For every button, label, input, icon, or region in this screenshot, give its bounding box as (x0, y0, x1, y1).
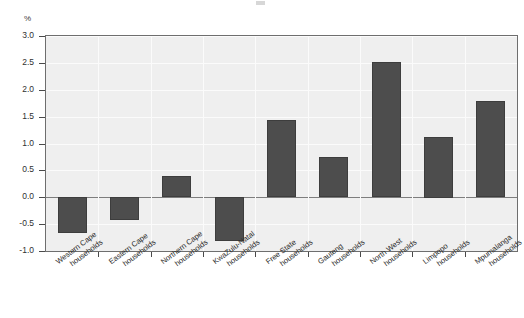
gridline-horizontal (46, 36, 517, 37)
gridline-vertical (255, 36, 256, 251)
y-axis-tick-label: 2.0 (0, 85, 34, 94)
y-axis-tick-label: 1.0 (0, 139, 34, 148)
gridline-vertical (360, 36, 361, 251)
bar-chart: % 3.02.52.01.51.00.50.0-0.5-1.0Western C… (0, 0, 524, 318)
y-axis-tick-label: 3.0 (0, 31, 34, 40)
gridline-vertical (151, 36, 152, 251)
gridline-vertical (412, 36, 413, 251)
x-axis-tick (360, 252, 361, 257)
y-axis-tick (39, 251, 45, 252)
gridline-horizontal (46, 90, 517, 91)
x-axis-tick (255, 252, 256, 257)
y-axis-tick (39, 90, 45, 91)
y-axis-tick-label: -1.0 (0, 246, 34, 255)
y-axis-tick (39, 36, 45, 37)
y-axis-tick (39, 224, 45, 225)
gridline-vertical (308, 36, 309, 251)
y-axis-tick-label: 0.0 (0, 192, 34, 201)
x-axis-tick (151, 252, 152, 257)
bar (372, 62, 401, 197)
x-axis-tick (203, 252, 204, 257)
bar (424, 137, 453, 198)
y-axis-tick (39, 144, 45, 145)
gridline-horizontal (46, 63, 517, 64)
bar (58, 197, 87, 233)
gridline-vertical (465, 36, 466, 251)
x-axis-tick (308, 252, 309, 257)
y-axis-tick-label: 0.5 (0, 165, 34, 174)
bar (319, 157, 348, 197)
y-axis-tick (39, 170, 45, 171)
gridline-vertical (98, 36, 99, 251)
bar (162, 176, 191, 197)
bar (476, 101, 505, 197)
y-axis-tick (39, 197, 45, 198)
x-axis-tick (465, 252, 466, 257)
y-axis-unit-label: % (24, 14, 31, 23)
bar (267, 120, 296, 197)
y-axis-tick-label: 2.5 (0, 58, 34, 67)
gridline-horizontal (46, 117, 517, 118)
x-axis-tick (98, 252, 99, 257)
y-axis-tick-label: -0.5 (0, 219, 34, 228)
x-axis-tick (412, 252, 413, 257)
y-axis-tick (39, 63, 45, 64)
scan-artifact (256, 1, 265, 5)
y-axis-tick (39, 117, 45, 118)
gridline-vertical (203, 36, 204, 251)
y-axis-tick-label: 1.5 (0, 112, 34, 121)
